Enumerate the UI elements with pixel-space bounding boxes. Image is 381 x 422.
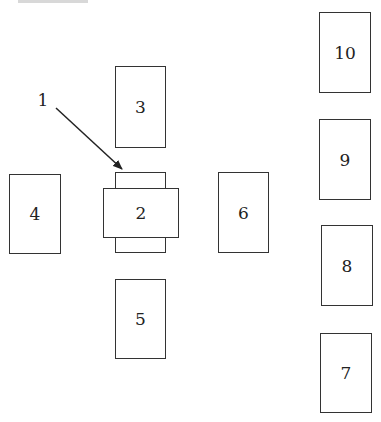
arrow-icon: [56, 108, 122, 169]
callout-arrow: [0, 0, 381, 422]
diagram-canvas: 3 2 4 6 5 10 9 8 7 1: [0, 0, 381, 422]
